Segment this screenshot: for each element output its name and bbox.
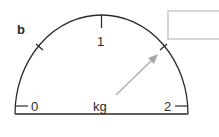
tick-label-1: 1 (97, 34, 104, 49)
pointer-arrow (116, 60, 152, 95)
part-label: b (17, 22, 25, 37)
unit-label: kg (93, 99, 107, 114)
tick-label-2: 2 (164, 99, 171, 114)
answer-box[interactable] (168, 11, 219, 39)
scale-diagram: b 1 0 2 kg (0, 0, 219, 137)
tick-label-0: 0 (31, 99, 38, 114)
